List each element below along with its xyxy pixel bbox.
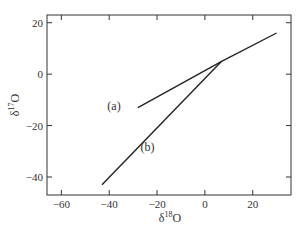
series-lines [102,33,277,185]
series-annotation: (b) [140,140,154,154]
plot-frame [47,15,291,195]
x-tick-label: 0 [202,198,208,210]
x-tick-label: 20 [247,198,259,210]
x-axis-ticks: −60−40−20020 [53,15,259,210]
y-axis-label: δ17O [7,94,22,117]
chart: −60−40−20020 −40−20020 (a)(b) δ18O δ17O [0,0,307,237]
series-annotation: (a) [107,99,120,113]
y-tick-label: 20 [32,17,44,29]
series-line [138,33,277,108]
series-line [102,61,222,184]
x-axis-label: δ18O [159,210,182,225]
y-tick-label: 0 [38,68,44,80]
y-tick-label: −20 [26,120,44,132]
y-axis-ticks: −40−20020 [26,17,291,183]
x-tick-label: −60 [53,198,71,210]
series-annotations: (a)(b) [107,99,154,154]
x-tick-label: −40 [101,198,119,210]
y-tick-label: −40 [26,171,44,183]
x-tick-label: −20 [148,198,166,210]
